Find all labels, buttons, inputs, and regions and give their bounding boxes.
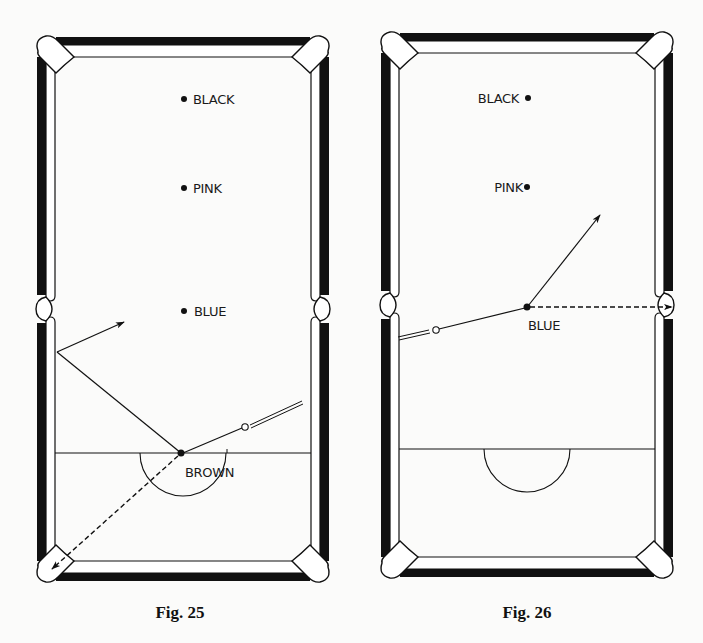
- brown-label: BROWN: [185, 465, 234, 480]
- fig25-balls: BLACK PINK BLUE BROWN: [178, 92, 236, 480]
- pink-label: PINK: [494, 180, 523, 195]
- cue-stick: [250, 401, 302, 425]
- pink-label: PINK: [193, 181, 222, 196]
- black-label: BLACK: [478, 91, 520, 106]
- black-ball-icon: [525, 95, 531, 101]
- arrow-icon: [57, 322, 124, 352]
- cue-stick: [398, 330, 429, 337]
- cue-ball-icon: [242, 424, 248, 430]
- pink-ball-icon: [181, 185, 187, 191]
- black-label: BLACK: [193, 92, 235, 107]
- dashed-arrow-icon: [52, 456, 178, 569]
- black-ball-icon: [181, 96, 187, 102]
- blue-label: BLUE: [528, 318, 560, 333]
- figure-caption: Fig. 26: [467, 603, 587, 623]
- blue-ball-icon: [524, 304, 531, 311]
- blue-label: BLUE: [194, 304, 226, 319]
- brown-ball-icon: [178, 450, 185, 457]
- cue-ball-icon: [433, 327, 439, 333]
- diagram-canvas: BLACK PINK BLUE BROWN BLACK PINK BLUE: [0, 0, 703, 643]
- blue-ball-icon: [181, 308, 187, 314]
- pink-ball-icon: [524, 184, 530, 190]
- arrow-icon: [528, 215, 600, 306]
- fig26-balls: BLACK PINK BLUE: [478, 91, 560, 333]
- figure-caption: Fig. 25: [120, 603, 240, 623]
- fig25-shot-paths: [52, 322, 303, 569]
